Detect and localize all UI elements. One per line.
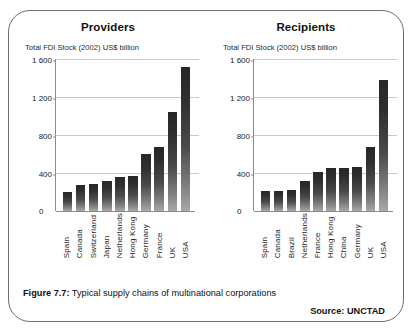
bar-slot	[153, 59, 166, 211]
axis-baseline-recipients	[254, 211, 393, 212]
x-label-slot: UK	[364, 213, 377, 258]
bar-slot	[298, 59, 311, 211]
x-label-slot: Canada	[271, 213, 284, 258]
x-label-slot: Switzerland	[86, 213, 99, 258]
x-label-slot: France	[311, 213, 324, 258]
x-axis-label: Brazil	[287, 213, 296, 258]
bar-slot	[74, 59, 87, 211]
bar-slot	[166, 59, 179, 211]
bar	[76, 185, 85, 211]
figure-caption: Figure 7.7: Typical supply chains of mul…	[23, 288, 276, 298]
x-label-slot: Netherlands	[298, 213, 311, 258]
chart-title-recipients: Recipients	[207, 21, 405, 33]
x-label-slot: China	[337, 213, 350, 258]
figure-frame: Providers Total FDI Stock (2002) US$ bil…	[8, 10, 404, 322]
x-axis-label: Germany	[353, 213, 362, 258]
x-label-slot: Hong Kong	[324, 213, 337, 258]
bar	[63, 192, 72, 211]
chart-panel-recipients: Recipients Total FDI Stock (2002) US$ bi…	[207, 17, 405, 279]
x-axis-label: France	[313, 213, 322, 258]
y-tick-label-1600: 1 600	[230, 56, 250, 65]
bar-slot	[338, 59, 351, 211]
bar-slot	[285, 59, 298, 211]
bar	[102, 181, 111, 211]
bar	[181, 67, 190, 211]
x-label-slot: Canada	[73, 213, 86, 258]
bar-slot	[61, 59, 74, 211]
bar	[274, 191, 283, 211]
x-axis-label: Canada	[273, 213, 282, 258]
x-axis-label: Spain	[62, 213, 71, 258]
bar	[89, 184, 98, 211]
y-tick-zero-recipients: 0	[237, 207, 241, 216]
bars-recipients	[255, 59, 393, 211]
bar-slot	[100, 59, 113, 211]
axis-area-providers: 4008001 2001 600	[55, 59, 195, 211]
chart-subtitle-providers: Total FDI Stock (2002) US$ billion	[25, 43, 139, 52]
bar	[287, 190, 296, 211]
y-tick-label-1200: 1 200	[32, 94, 52, 103]
bar-slot	[324, 59, 337, 211]
x-axis-label: UK	[168, 213, 177, 258]
x-label-slot: Germany	[139, 213, 152, 258]
chart-title-providers: Providers	[9, 21, 207, 33]
x-axis-label: USA	[181, 213, 190, 258]
x-axis-label: Hong Kong	[128, 213, 137, 258]
x-label-slot: Netherlands	[113, 213, 126, 258]
x-axis-label: Netherlands	[300, 213, 309, 258]
y-tick-label-400: 400	[39, 170, 52, 179]
bar-slot	[272, 59, 285, 211]
bar	[379, 80, 388, 211]
bar	[141, 154, 150, 211]
bar-slot	[351, 59, 364, 211]
bars-providers	[57, 59, 195, 211]
y-tick-label-400: 400	[237, 170, 250, 179]
bar	[339, 168, 348, 211]
x-axis-label: Spain	[260, 213, 269, 258]
y-tick-label-1200: 1 200	[230, 94, 250, 103]
x-axis-label: UK	[366, 213, 375, 258]
x-axis-label: Canada	[75, 213, 84, 258]
x-label-slot: France	[152, 213, 165, 258]
x-label-slot: Spain	[258, 213, 271, 258]
y-tick-label-800: 800	[39, 132, 52, 141]
x-label-slot: Japan	[100, 213, 113, 258]
figure-caption-text: Typical supply chains of multinational c…	[69, 288, 276, 298]
x-axis-label: Switzerland	[89, 213, 98, 258]
bar-slot	[179, 59, 192, 211]
plot-area-recipients: 4008001 2001 600	[223, 59, 393, 211]
bar-slot	[87, 59, 100, 211]
x-axis-labels-providers: 0 SpainCanadaSwitzerlandJapanNetherlands…	[25, 213, 195, 277]
x-label-slot: USA	[179, 213, 192, 258]
bar	[326, 168, 335, 211]
x-axis-label: USA	[379, 213, 388, 258]
x-label-slot: Brazil	[284, 213, 297, 258]
chart-panel-providers: Providers Total FDI Stock (2002) US$ bil…	[9, 17, 207, 279]
bar	[313, 172, 322, 211]
bar	[300, 181, 309, 211]
bar-slot	[364, 59, 377, 211]
x-axis-label: France	[155, 213, 164, 258]
x-axis-labels-recipients: 0 SpainCanadaBrazilNetherlandsFranceHong…	[223, 213, 393, 277]
axis-area-recipients: 4008001 2001 600	[253, 59, 393, 211]
axis-baseline-providers	[56, 211, 195, 212]
bar	[154, 147, 163, 211]
x-label-slot: Hong Kong	[126, 213, 139, 258]
bar-slot	[140, 59, 153, 211]
y-tick-label-1600: 1 600	[32, 56, 52, 65]
figure-caption-label: Figure 7.7:	[23, 288, 69, 298]
x-label-slot: UK	[166, 213, 179, 258]
bar	[168, 112, 177, 211]
x-axis-label: Netherlands	[115, 213, 124, 258]
bar	[366, 147, 375, 211]
bar-slot	[113, 59, 126, 211]
bar	[115, 177, 124, 211]
chart-subtitle-recipients: Total FDI Stock (2002) US$ billion	[223, 43, 337, 52]
bar	[261, 191, 270, 211]
figure-source: Source: UNCTAD	[310, 306, 385, 316]
bar	[128, 176, 137, 211]
bar-slot	[126, 59, 139, 211]
x-axis-label: China	[339, 213, 348, 258]
y-tick-zero-providers: 0	[39, 207, 43, 216]
bar	[352, 167, 361, 211]
